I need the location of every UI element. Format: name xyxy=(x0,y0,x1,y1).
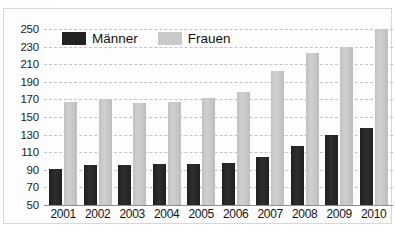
x-tick-label: 2001 xyxy=(46,207,81,227)
y-tick-label: 50 xyxy=(27,199,39,211)
y-tick-label: 70 xyxy=(27,181,39,193)
x-tick-label: 2002 xyxy=(81,207,116,227)
bar-group xyxy=(219,29,254,205)
bar-group xyxy=(46,29,81,205)
bar-maenner-2002 xyxy=(84,165,97,205)
bar-maenner-2010 xyxy=(360,128,373,205)
y-tick-label: 150 xyxy=(20,111,39,123)
legend-label: Männer xyxy=(92,31,138,46)
x-tick-label: 2007 xyxy=(253,207,288,227)
bar-group xyxy=(322,29,357,205)
bar-frauen-2008 xyxy=(306,53,319,205)
x-tick-label: 2010 xyxy=(357,207,392,227)
bar-group xyxy=(253,29,288,205)
bar-group xyxy=(357,29,392,205)
bar-frauen-2007 xyxy=(271,71,284,205)
bar-maenner-2001 xyxy=(49,169,62,205)
bar-frauen-2004 xyxy=(168,102,181,205)
y-tick-label: 90 xyxy=(27,164,39,176)
bar-frauen-2006 xyxy=(237,92,250,205)
y-axis-tick-labels: 250230210190170150130110907050 xyxy=(4,29,42,205)
bar-frauen-2010 xyxy=(375,29,388,205)
y-tick-label: 130 xyxy=(20,129,39,141)
y-tick-label: 230 xyxy=(20,41,39,53)
bar-group xyxy=(115,29,150,205)
bar-group xyxy=(150,29,185,205)
x-axis-tick-labels: 2001200220032004200520062007200820092010 xyxy=(44,207,393,227)
bar-maenner-2009 xyxy=(325,135,338,205)
bar-frauen-2003 xyxy=(133,103,146,205)
y-tick-label: 110 xyxy=(21,146,39,158)
light-swatch xyxy=(158,32,182,45)
y-tick-label: 250 xyxy=(20,23,39,35)
bar-frauen-2005 xyxy=(202,98,215,205)
y-tick-label: 210 xyxy=(20,58,39,70)
x-tick-label: 2003 xyxy=(115,207,150,227)
caption-sliver: ·························· xyxy=(4,0,154,5)
bar-frauen-2002 xyxy=(99,99,112,205)
gridline-50 xyxy=(44,205,393,206)
bar-maenner-2004 xyxy=(153,164,166,205)
bar-group xyxy=(81,29,116,205)
chart-legend: MännerFrauen xyxy=(62,31,231,46)
bar-maenner-2003 xyxy=(118,165,131,205)
plot-area xyxy=(44,29,393,205)
x-tick-label: 2005 xyxy=(184,207,219,227)
x-tick-label: 2006 xyxy=(219,207,254,227)
bar-frauen-2001 xyxy=(64,102,77,205)
legend-item-maenner: Männer xyxy=(62,31,138,46)
bar-frauen-2009 xyxy=(340,47,353,205)
chart-frame: 250230210190170150130110907050 200120022… xyxy=(3,8,392,224)
x-tick-label: 2004 xyxy=(150,207,185,227)
bar-groups xyxy=(44,29,393,205)
x-tick-label: 2009 xyxy=(322,207,357,227)
dark-swatch xyxy=(62,32,86,45)
bar-maenner-2005 xyxy=(187,164,200,205)
legend-label: Frauen xyxy=(188,31,231,46)
bar-maenner-2008 xyxy=(291,146,304,205)
y-tick-label: 170 xyxy=(20,93,39,105)
bar-group xyxy=(184,29,219,205)
y-tick-label: 190 xyxy=(20,76,39,88)
bar-maenner-2007 xyxy=(256,157,269,205)
bar-maenner-2006 xyxy=(222,163,235,205)
x-tick-label: 2008 xyxy=(288,207,323,227)
legend-item-frauen: Frauen xyxy=(158,31,231,46)
bar-group xyxy=(288,29,323,205)
